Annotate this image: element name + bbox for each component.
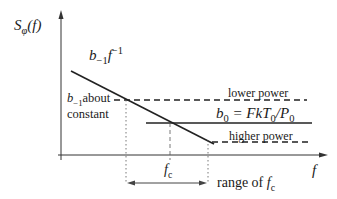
range-arrow-right-icon bbox=[199, 181, 207, 186]
slope-label: b−1f−1 bbox=[89, 48, 123, 63]
y-axis-label: Sφ(f) bbox=[14, 18, 41, 33]
x-axis-label: f bbox=[312, 163, 316, 178]
fc-label: fc bbox=[164, 163, 172, 177]
y-axis-arrow-icon bbox=[59, 10, 64, 19]
range-arrow-left-icon bbox=[127, 181, 135, 186]
range-label: range of fc bbox=[217, 176, 275, 190]
b0-formula: b0 = FkT0/P0 bbox=[216, 106, 294, 121]
x-axis-arrow-icon bbox=[319, 153, 328, 158]
b-minus1-note: b−1about constant bbox=[67, 91, 110, 121]
higher-power-label: higher power bbox=[229, 130, 293, 142]
lower-power-label: lower power bbox=[228, 87, 288, 99]
